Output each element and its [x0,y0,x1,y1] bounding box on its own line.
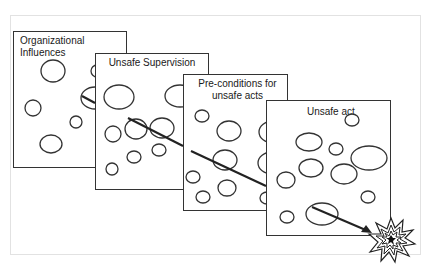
trajectory-arrow [82,96,372,233]
explosion-icon [369,218,415,262]
trajectory-overlay [0,0,433,275]
